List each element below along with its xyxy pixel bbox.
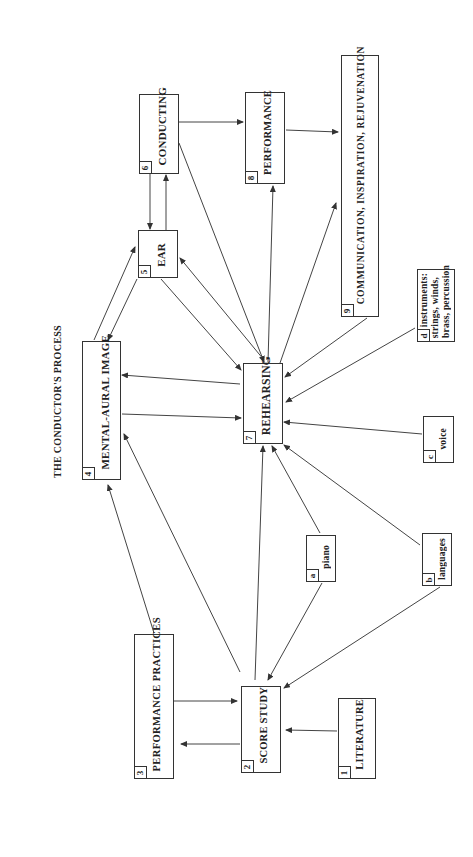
node-label: MENTAL-AURAL IMAGE <box>99 335 111 469</box>
edge-3-4 <box>108 485 154 633</box>
edge-d-7 <box>286 328 415 402</box>
node-number: 5 <box>138 265 151 278</box>
node-number: b <box>422 573 435 586</box>
node-label: REHEARSING <box>260 356 272 435</box>
edge-1-2 <box>286 730 337 731</box>
edge-9-7 <box>285 318 367 377</box>
node-number: c <box>423 450 436 463</box>
node-label: LITERATURE <box>354 699 365 770</box>
node-label: CONDUCTING <box>156 87 168 165</box>
edge-7-9 <box>280 203 336 363</box>
node-label: EAR <box>155 243 167 267</box>
node-performance-practices: 3 PERFORMANCE PRACTICES <box>134 634 174 779</box>
node-label-line2: strings, winds, <box>430 277 441 338</box>
node-conducting: 6 CONDUCTING <box>139 94 179 174</box>
edge-c-7 <box>284 422 422 434</box>
node-languages: b languages <box>422 533 452 586</box>
node-label: voice <box>438 428 449 450</box>
edge-5-7 <box>161 279 241 370</box>
node-number: 7 <box>243 431 256 444</box>
node-voice: c voice <box>423 416 454 463</box>
node-instruments: d instruments: strings, winds, brass, pe… <box>417 269 455 342</box>
node-number: a <box>306 569 319 582</box>
node-label: COMMUNICATION, INSPIRATION, REJUVENATION <box>356 46 366 304</box>
node-number: 9 <box>341 304 354 317</box>
node-label-line1: instruments: <box>419 273 430 327</box>
edge-a-2 <box>268 583 322 680</box>
edge-7-5 <box>180 258 264 360</box>
node-rehearsing: 7 REHEARSING <box>243 363 283 444</box>
node-ear: 5 EAR <box>138 230 178 278</box>
diagram-title: THE CONDUCTOR'S PROCESS <box>52 333 63 478</box>
node-literature: 1 LITERATURE <box>338 698 376 779</box>
node-label-line3: brass, percussion <box>441 265 452 338</box>
edge-7-8 <box>268 186 273 362</box>
node-label: SCORE STUDY <box>258 687 269 764</box>
node-label: PERFORMANCE PRACTICES <box>151 617 162 772</box>
node-number: 4 <box>82 467 95 480</box>
edge-b-2 <box>284 587 440 688</box>
node-label: languages <box>437 538 448 580</box>
edge-8-9 <box>286 130 338 132</box>
node-communication-inspiration-rejuvenation: 9 COMMUNICATION, INSPIRATION, REJUVENATI… <box>341 55 379 317</box>
edge-7-4 <box>122 375 240 384</box>
node-number: d <box>417 329 430 342</box>
node-number: 8 <box>245 171 258 184</box>
node-label: piano <box>321 545 332 569</box>
edge-2-7 <box>255 446 263 680</box>
edge-4-7 <box>122 414 241 418</box>
edges-layer <box>0 0 473 857</box>
conductors-process-diagram: THE CONDUCTOR'S PROCESS 6 CONDUCTING 5 E… <box>0 0 473 857</box>
node-number: 6 <box>139 161 152 174</box>
node-number: 2 <box>241 760 254 773</box>
edge-a-7 <box>272 446 320 533</box>
node-performance: 8 PERFORMANCE <box>245 92 285 184</box>
edge-5-4 <box>108 279 137 340</box>
node-piano: a piano <box>306 535 336 582</box>
node-score-study: 2 SCORE STUDY <box>241 686 281 773</box>
node-number: 1 <box>338 766 351 779</box>
node-mental-aural-image: 4 MENTAL-AURAL IMAGE <box>82 341 121 480</box>
node-label: PERFORMANCE <box>262 90 273 175</box>
node-number: 3 <box>134 766 147 779</box>
edge-b-7 <box>284 445 420 545</box>
